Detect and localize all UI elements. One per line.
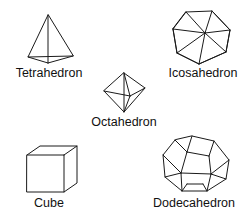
icosahedron-edge-6 xyxy=(205,30,230,33)
dodecahedron-edge-14 xyxy=(182,184,187,191)
icosahedron-edge-9 xyxy=(226,30,230,52)
cube-outline xyxy=(27,146,77,192)
icosahedron-edge-8 xyxy=(173,29,177,53)
solid-dodecahedron: Dodecahedron xyxy=(153,136,235,210)
dodecahedron-edge-10 xyxy=(165,173,181,177)
solid-cube: Cube xyxy=(27,146,77,210)
dodecahedron-edge-7 xyxy=(175,140,187,152)
octahedron-label: Octahedron xyxy=(91,115,156,129)
dodecahedron-edge-12 xyxy=(181,173,182,191)
icosahedron-label: Icosahedron xyxy=(169,66,238,80)
octahedron-edge-3 xyxy=(130,88,145,96)
cube-edge-3 xyxy=(64,146,77,155)
icosahedron-outline xyxy=(173,11,230,64)
dodecahedron-label: Dodecahedron xyxy=(153,196,235,210)
dodecahedron-edge-4 xyxy=(181,152,187,173)
dodecahedron-edge-15 xyxy=(203,184,207,191)
icosahedron-edge-11 xyxy=(205,33,226,52)
icosahedron-edge-7 xyxy=(199,33,205,64)
dodecahedron-edge-5 xyxy=(209,156,211,174)
dodecahedron-edge-11 xyxy=(211,174,226,179)
icosahedron-edge-3 xyxy=(186,12,205,33)
solid-tetrahedron: Tetrahedron xyxy=(16,15,83,80)
tetrahedron-edge-3 xyxy=(48,56,73,63)
dodecahedron-edge-1 xyxy=(187,136,192,152)
solid-icosahedron: Icosahedron xyxy=(169,11,238,80)
icosahedron-edge-12 xyxy=(177,53,199,64)
icosahedron-edge-1 xyxy=(173,12,186,29)
icosahedron-edge-4 xyxy=(205,11,212,33)
tetrahedron-label: Tetrahedron xyxy=(16,66,83,80)
icosahedron-edge-5 xyxy=(173,29,205,33)
icosahedron-edge-2 xyxy=(212,11,230,30)
tetrahedron-outline xyxy=(28,15,73,57)
tetrahedron-edge-2 xyxy=(28,57,48,63)
solid-octahedron: Octahedron xyxy=(91,73,156,129)
cube-label: Cube xyxy=(34,196,64,210)
dodecahedron-edge-9 xyxy=(211,160,229,174)
icosahedron-edge-10 xyxy=(177,33,205,53)
dodecahedron-edge-6 xyxy=(181,173,211,174)
platonic-solids-figure: Tetrahedron Icosahedron xyxy=(0,0,249,220)
octahedron-edge-4 xyxy=(124,96,130,112)
dodecahedron-edge-8 xyxy=(163,155,181,173)
solids-canvas: Tetrahedron Icosahedron xyxy=(0,0,249,220)
dodecahedron-edge-2 xyxy=(209,141,214,156)
dodecahedron-edge-3 xyxy=(187,152,209,156)
icosahedron-edge-13 xyxy=(199,52,226,64)
dodecahedron-outline xyxy=(163,136,229,191)
